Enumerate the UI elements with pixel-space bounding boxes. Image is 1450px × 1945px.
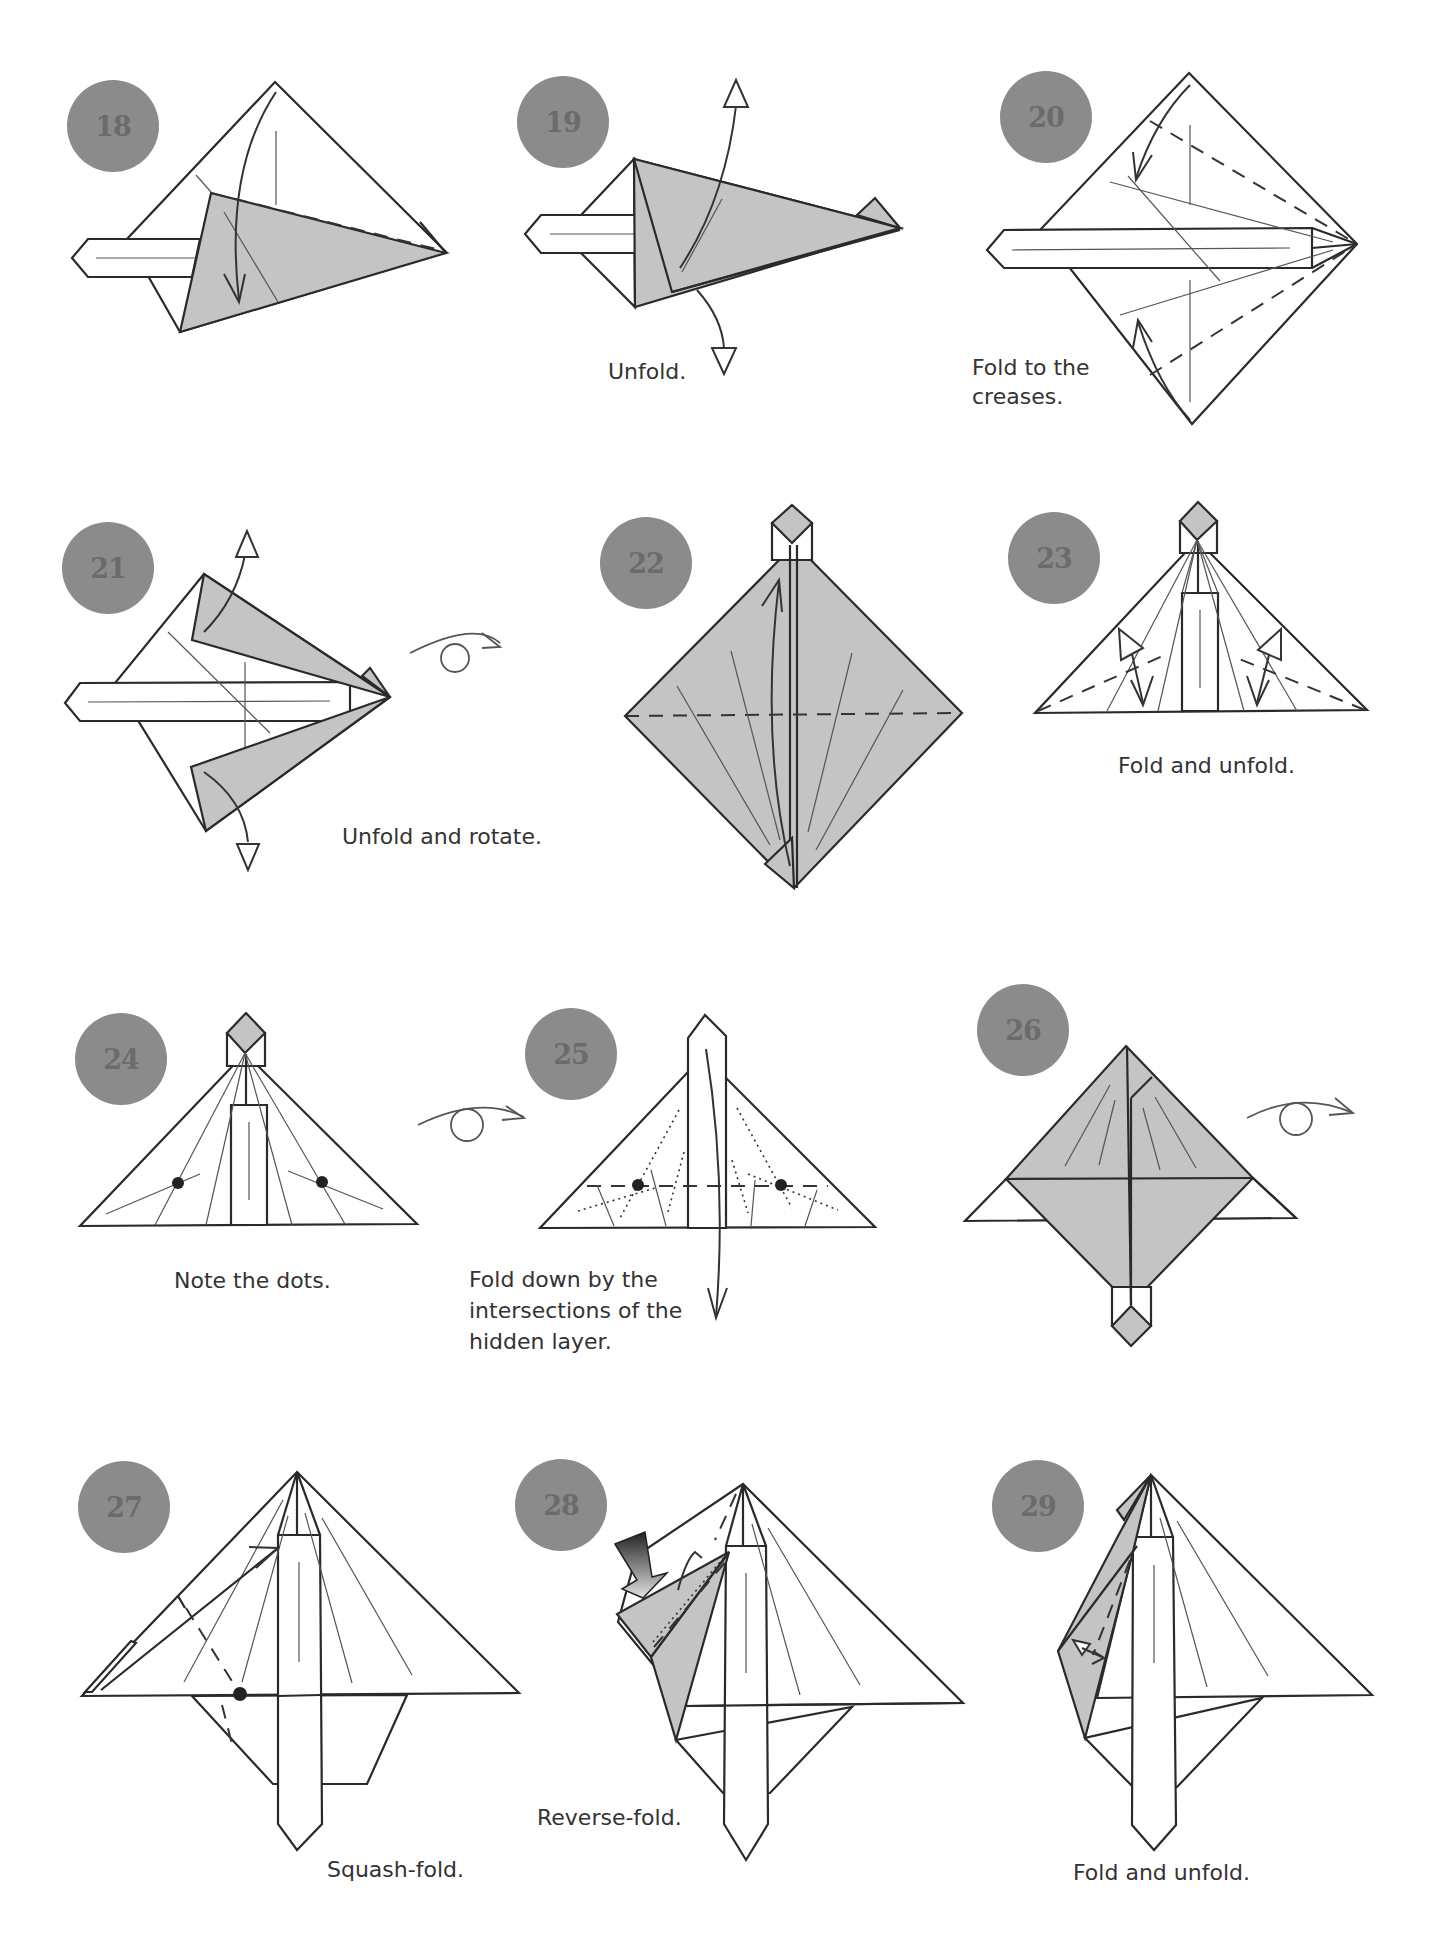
step-badge-18: 18: [67, 80, 159, 172]
reference-dot: [316, 1176, 328, 1188]
caption-step-21: Unfold and rotate.: [342, 820, 542, 853]
step-26-diagram: [965, 1046, 1353, 1346]
unfold-arrow-icon: [724, 80, 748, 107]
step-29-diagram: [1058, 1475, 1372, 1850]
turn-over-icon: [418, 1106, 524, 1141]
caption-step-19: Unfold.: [608, 355, 686, 388]
step-badge-28: 28: [515, 1459, 607, 1551]
caption-step-24: Note the dots.: [174, 1264, 331, 1297]
step-badge-24: 24: [75, 1013, 167, 1105]
caption-step-25-line-3: hidden layer.: [469, 1325, 612, 1358]
step-badge-20: 20: [1000, 71, 1092, 163]
caption-step-23: Fold and unfold.: [1118, 749, 1295, 782]
step-badge-19: 19: [517, 76, 609, 168]
caption-step-25-line-2: intersections of the: [469, 1294, 682, 1327]
caption-step-28: Reverse-fold.: [537, 1801, 682, 1834]
reference-dot: [632, 1179, 644, 1191]
unfold-arrow-icon: [237, 844, 259, 870]
turn-over-icon: [1247, 1098, 1353, 1135]
reference-dot: [172, 1177, 184, 1189]
caption-step-27: Squash-fold.: [327, 1853, 464, 1886]
step-badge-25: 25: [525, 1008, 617, 1100]
unfold-arrow-icon: [236, 531, 258, 557]
caption-step-29: Fold and unfold.: [1073, 1856, 1250, 1889]
unfold-arrow-icon: [712, 348, 736, 374]
step-badge-27: 27: [78, 1461, 170, 1553]
diagram-canvas: [0, 0, 1450, 1945]
caption-step-25-line-1: Fold down by the: [469, 1263, 658, 1296]
step-badge-22: 22: [600, 517, 692, 609]
step-badge-21: 21: [62, 522, 154, 614]
step-badge-26: 26: [977, 984, 1069, 1076]
turn-over-icon: [410, 633, 500, 672]
step-badge-29: 29: [992, 1460, 1084, 1552]
reference-dot: [233, 1687, 247, 1701]
caption-step-20-line-2: creases.: [972, 380, 1063, 413]
step-badge-23: 23: [1008, 512, 1100, 604]
reference-dot: [775, 1179, 787, 1191]
